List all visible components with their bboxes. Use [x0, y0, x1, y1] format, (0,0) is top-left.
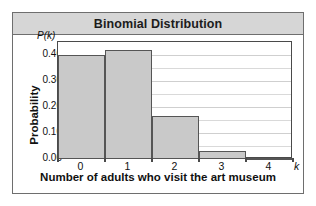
- plot-area: [57, 41, 292, 158]
- chart-title: Binomial Distribution: [94, 17, 223, 31]
- bar-1: [105, 50, 152, 159]
- bar-3: [199, 151, 246, 159]
- x-axis-title: Number of adults who visit the art museu…: [13, 171, 303, 183]
- chart-figure: Binomial Distribution Probability P(k) 0…: [12, 12, 304, 194]
- x-tick-mark: [245, 158, 247, 162]
- x-tick-mark: [198, 158, 200, 162]
- bar-0: [58, 55, 105, 159]
- plot-inner: [58, 42, 291, 157]
- x-tick-mark: [151, 158, 153, 162]
- x-tick-mark: [57, 158, 59, 162]
- bar-2: [152, 116, 199, 159]
- y-axis-symbol-label: P(k): [37, 30, 55, 41]
- chart-title-bar: Binomial Distribution: [13, 13, 303, 35]
- x-tick-mark: [104, 158, 106, 162]
